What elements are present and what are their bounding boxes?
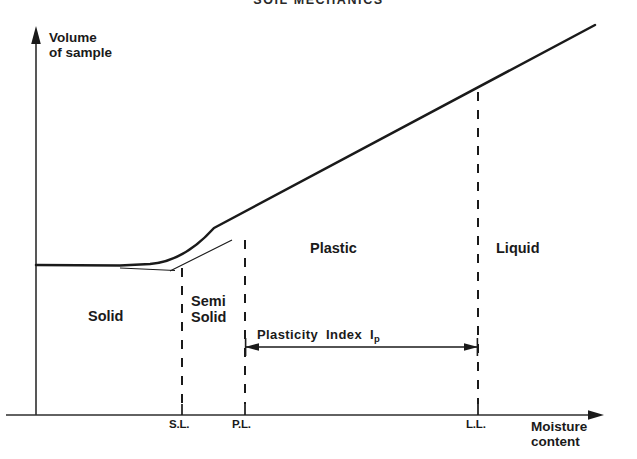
axis-tick-marks [182, 404, 478, 415]
volume-moisture-curve [36, 25, 595, 266]
region-label-solid: Solid [88, 308, 123, 324]
plasticity-index-text: Plasticity Index I [257, 327, 374, 342]
y-axis-label: Volume of sample [49, 30, 112, 60]
tick-label-plastic-limit: P.L. [232, 418, 251, 431]
tick-label-liquid-limit: L.L. [466, 418, 486, 431]
figure-canvas: SOIL MECHANICS [0, 0, 637, 459]
figure-drawing [0, 0, 637, 459]
x-axis [6, 410, 604, 420]
plasticity-index-subscript: p [374, 333, 380, 344]
region-label-liquid: Liquid [496, 240, 540, 256]
region-label-plastic: Plastic [310, 240, 357, 256]
x-axis-label: Moisture content [531, 419, 587, 449]
tick-label-shrinkage-limit: S.L. [169, 418, 189, 431]
region-label-semi-solid: Semi Solid [191, 293, 226, 325]
tangent-projection-line [120, 268, 175, 271]
plasticity-index-label: Plasticity Index Ip [257, 328, 380, 343]
y-axis [31, 26, 41, 415]
